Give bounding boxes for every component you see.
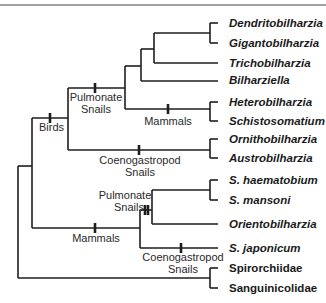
taxon-label: Trichobilharzia: [229, 57, 311, 69]
label-pulmonate-upper: Pulmonate: [70, 91, 123, 103]
label-birds: Birds: [39, 121, 65, 133]
label-mammals-lower: Mammals: [72, 232, 120, 244]
taxon-label: Orientobilharzia: [229, 218, 317, 230]
taxon-label: S. japonicum: [229, 242, 301, 254]
taxon-label: Bilharziella: [229, 74, 290, 86]
taxon-label: Gigantobilharzia: [229, 37, 320, 49]
taxon-label: Ornithobilharzia: [229, 133, 318, 145]
label-coeno-lower-2: Snails: [168, 263, 198, 275]
taxon-label: Sanguinicolidae: [229, 282, 317, 294]
taxon-label: Heterobilharzia: [229, 96, 313, 108]
taxon-label: Spirorchiidae: [229, 262, 303, 274]
taxon-label: Austrobilharzia: [228, 152, 313, 164]
taxon-label: S. haematobium: [229, 174, 318, 186]
taxon-labels: Dendritobilharzia Gigantobilharzia Trich…: [228, 17, 325, 294]
taxon-label: Schistosomatium: [229, 115, 325, 127]
taxon-label: S. mansoni: [229, 194, 291, 206]
taxon-label: Dendritobilharzia: [229, 17, 324, 29]
label-coeno-lower: Coenogastropod: [142, 251, 223, 263]
label-mammals-upper: Mammals: [144, 115, 192, 127]
label-pulmonate-lower-2: Snails: [114, 201, 144, 213]
label-pulmonate-upper-2: Snails: [81, 103, 111, 115]
label-coeno-upper: Coenogastropod: [99, 154, 180, 166]
label-coeno-upper-2: Snails: [125, 166, 155, 178]
label-pulmonate-lower: Pulmonate: [99, 189, 152, 201]
phylogenetic-tree: Birds Pulmonate Snails Mammals Coenogast…: [0, 0, 326, 303]
